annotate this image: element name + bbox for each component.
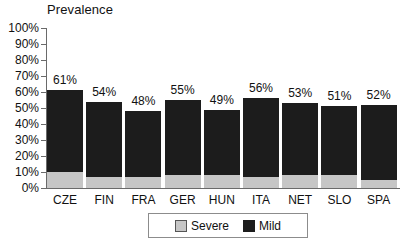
y-axis-tick-label: 40% — [0, 118, 39, 130]
bar-segment-mild[interactable] — [86, 102, 122, 177]
bar-segment-severe[interactable] — [165, 175, 201, 188]
bar-segment-severe[interactable] — [282, 175, 318, 188]
bar-segment-severe[interactable] — [361, 180, 397, 188]
y-axis-tick-label: 10% — [0, 166, 39, 178]
bar-segment-severe[interactable] — [47, 172, 83, 188]
bar-stack[interactable] — [361, 105, 397, 188]
y-axis-tick-mark — [41, 140, 46, 141]
y-axis-tick-label: 50% — [0, 102, 39, 114]
bar-stack[interactable] — [47, 90, 83, 188]
y-axis-tick-label: 60% — [0, 86, 39, 98]
y-axis-tick-mark — [41, 60, 46, 61]
bar-stack[interactable] — [165, 100, 201, 188]
bar-segment-mild[interactable] — [165, 100, 201, 175]
y-axis-tick-labels: 100%90%80%70%60%50%40%30%20%10%0% — [0, 0, 39, 248]
bar-segment-mild[interactable] — [282, 103, 318, 175]
legend-item-mild[interactable]: Mild — [243, 220, 281, 232]
y-axis-tick-label: 90% — [0, 38, 39, 50]
x-axis-line — [46, 188, 400, 189]
y-axis-tick-mark — [41, 44, 46, 45]
bar-segment-mild[interactable] — [321, 106, 357, 175]
bar-value-label: 48% — [120, 95, 166, 107]
y-axis-tick-label: 0% — [0, 182, 39, 194]
bar-stack[interactable] — [321, 106, 357, 188]
legend-label-severe: Severe — [191, 220, 229, 232]
x-axis-category-label: SPA — [353, 194, 402, 206]
bar-segment-mild[interactable] — [125, 111, 161, 177]
bar-stack[interactable] — [86, 102, 122, 188]
bar-segment-severe[interactable] — [204, 175, 240, 188]
bar-segment-severe[interactable] — [243, 177, 279, 188]
severe-swatch-icon — [175, 220, 187, 232]
y-axis-tick-mark — [41, 108, 46, 109]
y-axis-tick-mark — [41, 156, 46, 157]
y-axis-tick-label: 70% — [0, 70, 39, 82]
bar-value-label: 49% — [199, 94, 245, 106]
bar-value-label: 52% — [356, 89, 402, 101]
y-axis-tick-label: 80% — [0, 54, 39, 66]
bar-segment-mild[interactable] — [47, 90, 83, 172]
y-axis-tick-mark — [41, 188, 46, 189]
bar-stack[interactable] — [282, 103, 318, 188]
y-axis-tick-mark — [41, 172, 46, 173]
y-axis-tick-label: 20% — [0, 150, 39, 162]
legend-label-mild: Mild — [259, 220, 281, 232]
prevalence-bar-chart: Prevalence 100%90%80%70%60%50%40%30%20%1… — [0, 0, 402, 248]
bar-stack[interactable] — [204, 110, 240, 188]
bar-segment-mild[interactable] — [243, 98, 279, 176]
y-axis-tick-mark — [41, 124, 46, 125]
chart-legend: Severe Mild — [148, 213, 308, 238]
bar-segment-severe[interactable] — [86, 177, 122, 188]
y-axis-tick-mark — [41, 28, 46, 29]
bar-segment-mild[interactable] — [361, 105, 397, 180]
bar-stack[interactable] — [125, 111, 161, 188]
bar-segment-severe[interactable] — [125, 177, 161, 188]
bar-stack[interactable] — [243, 98, 279, 188]
mild-swatch-icon — [243, 220, 255, 232]
legend-item-severe[interactable]: Severe — [175, 220, 229, 232]
y-axis-tick-label: 100% — [0, 22, 39, 34]
y-axis-tick-mark — [41, 92, 46, 93]
bar-segment-severe[interactable] — [321, 175, 357, 188]
chart-title: Prevalence — [47, 2, 113, 17]
bar-value-label: 61% — [42, 74, 88, 86]
bar-segment-mild[interactable] — [204, 110, 240, 176]
y-axis-tick-label: 30% — [0, 134, 39, 146]
